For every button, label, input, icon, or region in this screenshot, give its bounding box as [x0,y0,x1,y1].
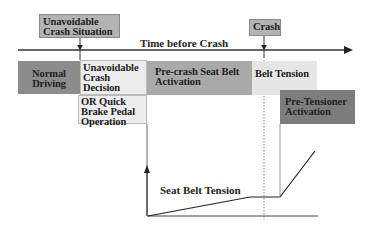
phase-unavoidable-decision: Unavoidable Crash Decision [80,60,147,95]
timeline-arrowhead-icon [344,46,353,54]
y-axis-arrowhead-icon [144,165,150,173]
phase-normal-driving: Normal Driving [18,61,80,94]
graph-label: Seat Belt Tension [160,185,241,196]
phase-precrash-activation: Pre-crash Seat Belt Activation [147,61,252,95]
unavoidable-crash-situation-callout: Unavoidable Crash Situation [39,14,120,38]
phase-pretensioner-activation: Pre-Tensioner Activation [280,90,355,124]
phase-quick-brake: OR Quick Brake Pedal Operation [78,95,147,124]
crash-callout: Crash [249,19,281,36]
timeline-label: Time before Crash [140,38,228,49]
